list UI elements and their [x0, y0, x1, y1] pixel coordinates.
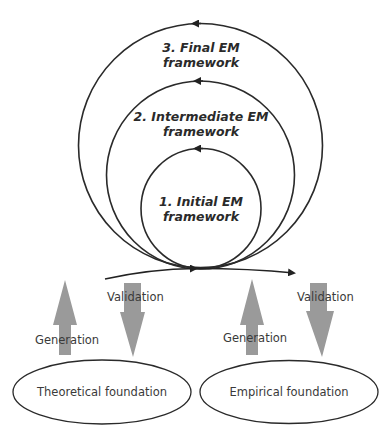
stage-1-label-line2: framework — [159, 209, 243, 224]
diagram-canvas: 3. Final EM framework 2. Intermediate EM… — [0, 0, 391, 438]
right-generation-label: Generation — [223, 331, 287, 345]
left-generation-label: Generation — [35, 333, 99, 347]
stage-1-label: 1. Initial EM framework — [159, 194, 243, 224]
theoretical-foundation-label: Theoretical foundation — [37, 385, 167, 399]
progression-arrow — [105, 269, 294, 280]
stage-2-label: 2. Intermediate EM framework — [134, 109, 269, 139]
left-validation-label: Validation — [107, 290, 164, 304]
stage-3-label-line1: 3. Final EM — [162, 40, 240, 55]
stage-2-label-line2: framework — [134, 124, 269, 139]
stage-3-label-line2: framework — [162, 55, 240, 70]
empirical-foundation-label: Empirical foundation — [229, 385, 348, 399]
stage-2-label-line1: 2. Intermediate EM — [134, 109, 269, 124]
stage-1-label-line1: 1. Initial EM — [159, 194, 243, 209]
stage-3-label: 3. Final EM framework — [162, 40, 240, 70]
right-validation-label: Validation — [297, 290, 354, 304]
